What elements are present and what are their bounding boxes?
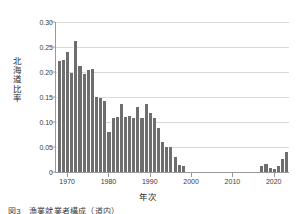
y-tick-mark-0.25 — [51, 47, 55, 48]
y-tick-label-0.25: 0.25 — [27, 44, 53, 51]
y-tick-label-0.05: 0.05 — [27, 144, 53, 151]
bar-1998 — [181, 166, 185, 173]
bar-2023 — [284, 152, 288, 172]
x-axis-line — [56, 172, 289, 173]
y-tick-label-0.30: 0.30 — [27, 19, 53, 26]
y-tick-mark-0.30 — [51, 22, 55, 23]
y-tick-label-0.20: 0.20 — [27, 69, 53, 76]
x-tick-mark-2020 — [274, 173, 275, 177]
x-tick-mark-2000 — [191, 173, 192, 177]
y-tick-mark-0.05 — [51, 147, 55, 148]
y-tick-mark-0.20 — [51, 72, 55, 73]
x-tick-label-2020: 2020 — [266, 178, 282, 185]
figure-caption: 図3 漁業就業者構成（道内） — [8, 205, 119, 214]
figure-bar-chart: 北 海 道 比 率 00.050.100.150.200.250.30 1970… — [0, 0, 296, 214]
x-tick-mark-1990 — [150, 173, 151, 177]
x-tick-label-1990: 1990 — [142, 178, 158, 185]
y-tick-label-0.15: 0.15 — [27, 94, 53, 101]
y-tick-mark-0 — [51, 172, 55, 173]
y-tick-mark-0.15 — [51, 97, 55, 98]
x-tick-label-1970: 1970 — [59, 178, 75, 185]
plot-area — [56, 22, 289, 172]
y-tick-label-0: 0 — [27, 169, 53, 176]
y-axis-labels: 00.050.100.150.200.250.30 — [0, 0, 53, 214]
x-tick-mark-2010 — [232, 173, 233, 177]
bar-series — [56, 22, 289, 172]
x-tick-mark-1980 — [108, 173, 109, 177]
y-tick-mark-0.10 — [51, 122, 55, 123]
x-tick-label-1980: 1980 — [101, 178, 117, 185]
x-tick-label-2000: 2000 — [183, 178, 199, 185]
y-tick-label-0.10: 0.10 — [27, 119, 53, 126]
x-tick-label-2010: 2010 — [225, 178, 241, 185]
x-tick-mark-1970 — [67, 173, 68, 177]
x-axis-title: 年次 — [0, 190, 296, 202]
